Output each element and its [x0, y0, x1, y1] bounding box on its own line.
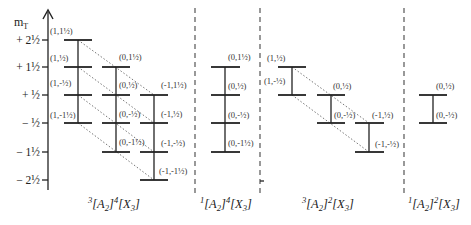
state-label: (0,-½) — [119, 109, 140, 119]
state-label: (0,-½) — [334, 110, 355, 120]
state-label: (-1,½) — [161, 109, 182, 119]
state-label: (0,½) — [228, 81, 247, 91]
tick-label: + ½ — [22, 89, 40, 101]
state-label: (-1,-1½) — [159, 166, 187, 176]
state-label: (1,-½) — [264, 76, 285, 86]
state-label: (0,1½) — [228, 52, 251, 62]
state-label: (0,½) — [119, 80, 138, 90]
energy-level-diagram: mT + 2½ + 1½ + ½ − ½ − 1½ − 2½ (1,1½) (1… — [0, 0, 471, 225]
panel-caption: 1[A2]2[X3] — [408, 195, 460, 213]
axis-label: mT — [14, 15, 28, 31]
panel-caption: 1[A2]4[X3] — [200, 195, 252, 213]
tick-label: − 1½ — [16, 146, 40, 158]
tick-label: + 2½ — [16, 34, 40, 46]
state-label: (0,-½) — [228, 110, 249, 120]
panel-triplet-a2-4: (1,1½) (1,½) (1,-½) (1,-1½) (0,1½) (0,½)… — [50, 26, 187, 213]
state-label: (1,½) — [267, 53, 286, 63]
panel-singlet-a2-4: (0,1½) (0,½) (0,-½) (0,-1½) 1[A2]4[X3] — [200, 52, 254, 213]
state-label: (-1,-½) — [375, 139, 399, 149]
y-axis: mT + 2½ + 1½ + ½ − ½ − 1½ − 2½ — [14, 10, 53, 190]
state-label: (0,-1½) — [119, 137, 145, 147]
state-label: (0,½) — [436, 81, 455, 91]
state-label: (1,-½) — [50, 78, 71, 88]
state-label: (0,-½) — [436, 110, 457, 120]
state-label: (-1,-½) — [161, 138, 185, 148]
state-label: (0,-1½) — [228, 138, 254, 148]
panel-caption: 3[A2]4[X3] — [87, 195, 140, 213]
panel-triplet-a2-2: (1,½) (1,-½) (0,½) (0,-½) (-1,½) (-1,-½)… — [264, 53, 399, 213]
state-label: (1,-1½) — [50, 110, 76, 120]
state-label: (1,½) — [50, 53, 69, 63]
state-label: (0,1½) — [119, 52, 142, 62]
panel-caption: 3[A2]2[X3] — [301, 195, 354, 213]
tick-label: − ½ — [22, 117, 40, 129]
state-label: (-1,½) — [372, 110, 393, 120]
state-label: (-1,1½) — [161, 80, 187, 90]
panel-singlet-a2-2: (0,½) (0,-½) 1[A2]2[X3] — [408, 81, 460, 213]
tick-label: + 1½ — [16, 61, 40, 73]
tick-label: − 2½ — [16, 174, 40, 186]
state-label: (1,1½) — [50, 26, 73, 36]
state-label: (0,½) — [333, 81, 352, 91]
